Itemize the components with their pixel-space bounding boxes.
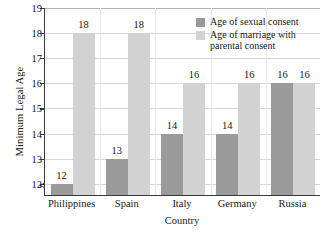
x-axis-tick-label: Spain (115, 198, 139, 209)
bar-value-label: 13 (112, 145, 123, 156)
x-axis-tick-label: Philippines (48, 198, 95, 209)
legend-item: Age of marriage with parental consent (196, 29, 322, 51)
bar-value-label: 18 (134, 19, 145, 30)
x-axis-title: Country (44, 215, 320, 226)
bar (51, 184, 73, 195)
y-axis-tick-label: 15 (32, 103, 43, 114)
bar (73, 33, 95, 195)
bar (128, 33, 150, 195)
y-axis-tick-label: 12 (32, 178, 43, 189)
bar-value-label: 14 (222, 120, 233, 131)
x-axis-tick-label: Italy (172, 198, 191, 209)
bar-value-label: 14 (167, 120, 178, 131)
bar-value-label: 16 (277, 69, 288, 80)
y-axis-tick-label: 13 (32, 153, 43, 164)
bar (161, 134, 183, 195)
x-axis-line (44, 195, 320, 196)
bar (238, 83, 260, 195)
legend-swatch-sexual-consent (196, 18, 205, 27)
legend-label: Age of sexual consent (210, 16, 299, 27)
bar (216, 134, 238, 195)
legend-item: Age of sexual consent (196, 16, 322, 27)
x-axis-tick-label: Russia (278, 198, 306, 209)
vertical-gridline (155, 8, 156, 195)
x-axis-tick-label: Germany (218, 198, 257, 209)
bar-value-label: 16 (299, 69, 310, 80)
y-axis-title: Minimum Legal Age (14, 47, 25, 177)
y-axis-tick-label: 14 (32, 128, 43, 139)
y-axis-tick-label: 16 (32, 78, 43, 89)
vertical-gridline (100, 8, 101, 195)
legend-swatch-marriage-consent (196, 31, 205, 40)
bar (106, 159, 128, 195)
y-axis-tick-label: 17 (32, 53, 43, 64)
bar-value-label: 18 (78, 19, 89, 30)
y-axis-tick-label: 18 (32, 28, 43, 39)
bar-value-label: 12 (56, 170, 67, 181)
gridline (45, 8, 320, 9)
bar-value-label: 16 (189, 69, 200, 80)
bar-chart: Minimum Legal Age 1213141516171819121813… (0, 0, 323, 234)
bar-value-label: 16 (244, 69, 255, 80)
legend-label: Age of marriage with parental consent (210, 29, 322, 51)
bar (271, 83, 293, 195)
bar (293, 83, 315, 195)
y-axis-tick-label: 19 (32, 3, 43, 14)
bar (183, 83, 205, 195)
chart-legend: Age of sexual consent Age of marriage wi… (196, 16, 322, 53)
